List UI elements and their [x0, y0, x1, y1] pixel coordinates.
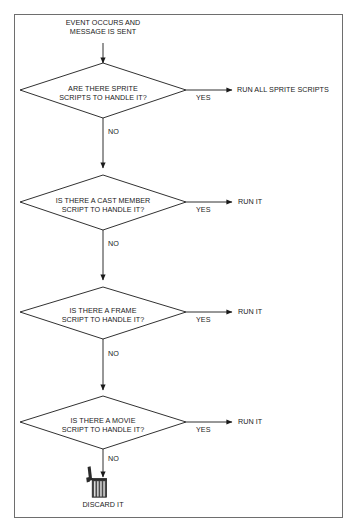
decision-3-yes-label: YES: [196, 316, 211, 325]
decision-4-yes-label: YES: [196, 426, 211, 435]
decision-3-yes-result: RUN IT: [238, 308, 262, 317]
terminal-label: DISCARD IT: [43, 501, 163, 510]
decision-1-yes-label: YES: [196, 94, 211, 103]
decision-3-question: IS THERE A FRAME SCRIPT TO HANDLE IT?: [23, 307, 183, 324]
decision-2-no-label: NO: [108, 240, 119, 249]
start-label: EVENT OCCURS AND MESSAGE IS SENT: [28, 19, 178, 36]
decision-4-question: IS THERE A MOVIE SCRIPT TO HANDLE IT?: [23, 417, 183, 434]
decision-2-question: IS THERE A CAST MEMBER SCRIPT TO HANDLE …: [18, 197, 188, 214]
decision-4-yes-result: RUN IT: [238, 418, 262, 427]
decision-2-yes-label: YES: [196, 206, 211, 215]
decision-4-no-label: NO: [108, 455, 119, 464]
trash-can-icon: [84, 464, 110, 500]
flowchart-page: EVENT OCCURS AND MESSAGE IS SENT ARE THE…: [0, 0, 358, 527]
decision-1-yes-result: RUN ALL SPRITE SCRIPTS: [237, 86, 329, 95]
decision-2-yes-result: RUN IT: [238, 198, 262, 207]
decision-1-question: ARE THERE SPRITE SCRIPTS TO HANDLE IT?: [23, 85, 183, 102]
decision-1-no-label: NO: [108, 128, 119, 137]
flowchart-svg: [0, 0, 358, 527]
decision-3-no-label: NO: [108, 350, 119, 359]
